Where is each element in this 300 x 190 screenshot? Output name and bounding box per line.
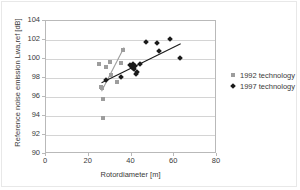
x-tick-label: 40: [116, 156, 146, 165]
data-point: [104, 65, 108, 69]
x-tick-label: 60: [158, 156, 188, 165]
data-point: [119, 61, 123, 65]
plot-area: [45, 20, 216, 153]
chart-legend: 1992 technology 1997 technology: [228, 70, 295, 92]
data-point: [115, 80, 119, 84]
x-tick-label: 0: [30, 156, 60, 165]
data-point: [97, 62, 101, 66]
trendlines: [46, 21, 217, 154]
x-tick-label: 20: [73, 156, 103, 165]
data-point: [121, 48, 125, 52]
square-marker-icon: [228, 73, 238, 77]
x-tick-label: 80: [201, 156, 231, 165]
data-point: [101, 97, 105, 101]
diamond-marker-icon: [228, 84, 238, 88]
legend-label-1992: 1992 technology: [240, 71, 295, 80]
legend-label-1997: 1997 technology: [240, 82, 295, 91]
trendline: [102, 48, 124, 92]
data-point: [108, 60, 112, 64]
legend-item-1997: 1997 technology: [228, 81, 295, 91]
chart-figure: Reference noise emission Lwa,ref [dB] Ro…: [0, 0, 300, 190]
data-point: [109, 73, 113, 77]
data-point: [101, 116, 105, 120]
legend-item-1992: 1992 technology: [228, 70, 295, 80]
data-point: [100, 86, 104, 90]
